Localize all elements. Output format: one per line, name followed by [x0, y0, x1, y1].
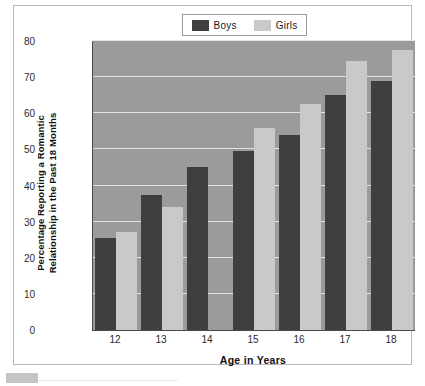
y-tick-label: 30 [11, 216, 35, 227]
y-tick-label: 10 [11, 288, 35, 299]
x-axis-ticks: 12131415161718 [92, 334, 414, 345]
y-tick-label: 0 [11, 325, 35, 336]
bar-boys-18 [371, 81, 392, 330]
bar-boys-17 [325, 95, 346, 330]
x-tick-label: 15 [230, 334, 276, 345]
legend-item-boys: Boys [192, 20, 237, 31]
chart-legend: BoysGirls [182, 14, 307, 36]
page-artifact-block [6, 373, 38, 383]
bar-girls-15 [254, 128, 275, 330]
bar-boys-16 [279, 135, 300, 330]
y-tick-label: 50 [11, 144, 35, 155]
bar-boys-13 [141, 195, 162, 330]
bar-group [139, 41, 185, 330]
bar-boys-14 [187, 167, 208, 330]
y-axis-label-line: Percentage Reporting a Romantic [35, 83, 47, 303]
legend-label: Girls [276, 20, 298, 31]
bar-girls-12 [116, 232, 137, 330]
legend-swatch-boys [192, 20, 209, 31]
bar-boys-12 [95, 238, 116, 330]
x-axis-label: Age in Years [92, 354, 414, 366]
chart-card: BoysGirls 01020304050607080 121314151617… [13, 5, 412, 365]
y-axis-label-line: Relationship in the Past 18 Months [47, 83, 59, 303]
bar-groups [93, 41, 415, 330]
x-tick-label: 16 [276, 334, 322, 345]
x-tick-label: 17 [322, 334, 368, 345]
bar-group [277, 41, 323, 330]
bar-girls-13 [162, 207, 183, 330]
legend-swatch-girls [254, 20, 271, 31]
x-tick-label: 12 [92, 334, 138, 345]
y-tick-label: 20 [11, 252, 35, 263]
page-artifact-line [38, 380, 178, 381]
x-tick-label: 18 [368, 334, 414, 345]
y-tick-label: 40 [11, 180, 35, 191]
bar-girls-16 [300, 104, 321, 330]
bar-girls-18 [392, 50, 413, 330]
y-tick-label: 70 [11, 72, 35, 83]
bar-group [185, 41, 231, 330]
bar-girls-17 [346, 61, 367, 330]
bar-group [231, 41, 277, 330]
legend-label: Boys [214, 20, 237, 31]
bar-boys-15 [233, 151, 254, 330]
bar-group [323, 41, 369, 330]
bar-group [369, 41, 415, 330]
y-tick-label: 80 [11, 36, 35, 47]
plot-area [92, 41, 415, 331]
y-axis-label: Percentage Reporting a RomanticRelations… [35, 83, 59, 303]
bar-group [93, 41, 139, 330]
y-tick-label: 60 [11, 108, 35, 119]
x-tick-label: 13 [138, 334, 184, 345]
x-tick-label: 14 [184, 334, 230, 345]
legend-item-girls: Girls [254, 20, 298, 31]
